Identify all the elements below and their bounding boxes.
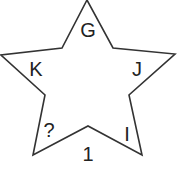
label-lower-right: I bbox=[124, 123, 130, 145]
label-bottom: 1 bbox=[82, 143, 93, 165]
label-upper-left: K bbox=[29, 58, 43, 80]
label-lower-left: ? bbox=[43, 119, 54, 141]
label-upper-right: J bbox=[132, 58, 142, 80]
star-diagram: G K J ? I 1 bbox=[0, 0, 187, 183]
label-top: G bbox=[80, 19, 96, 41]
